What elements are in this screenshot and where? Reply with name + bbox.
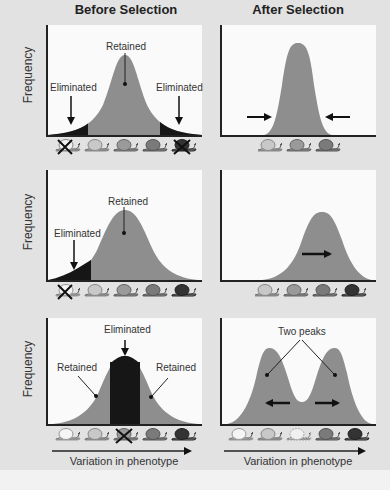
label-retained-right: Retained (156, 362, 196, 373)
label-eliminated-left: Eliminated (54, 228, 101, 239)
snail-row-before-1 (52, 137, 202, 157)
label-eliminated-right: Eliminated (156, 82, 203, 93)
label-retained: Retained (108, 196, 148, 207)
panel-before-disruptive: Eliminated Retained Retained (46, 318, 202, 426)
panel-before-directional: Retained Eliminated (46, 170, 202, 282)
before-selection-title: Before Selection (46, 2, 206, 17)
snail-row-before-2 (52, 282, 202, 302)
bottom-strip (0, 470, 390, 490)
y-axis-label: Frequency (21, 182, 35, 262)
y-axis-label: Frequency (21, 329, 35, 409)
panel-after-stabilizing (220, 25, 376, 137)
panel-before-stabilizing: Retained Eliminated Eliminated (46, 25, 202, 137)
after-selection-title: After Selection (218, 2, 378, 17)
x-axis-label: Variation in phenotype (218, 455, 378, 467)
snail-row-before-3 (52, 426, 202, 446)
label-two-peaks: Two peaks (278, 326, 326, 337)
y-axis-label: Frequency (21, 35, 35, 115)
label-eliminated-center: Eliminated (104, 324, 151, 335)
panel-after-disruptive: Two peaks (220, 318, 376, 426)
label-retained-left: Retained (57, 362, 97, 373)
snail-row-after-3 (225, 426, 375, 446)
panel-after-directional (220, 170, 376, 282)
snail-row-after-1 (258, 137, 348, 157)
label-eliminated-left: Eliminated (50, 82, 97, 93)
snail-row-after-2 (255, 282, 375, 302)
x-axis-label: Variation in phenotype (44, 455, 204, 467)
label-retained: Retained (106, 41, 146, 52)
